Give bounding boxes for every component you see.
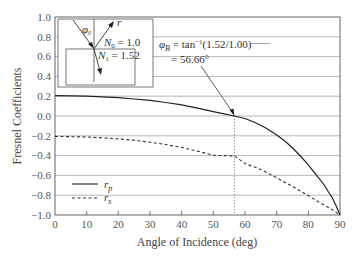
svg-text:φB = tan−1(1.52/1.00): φB = tan−1(1.52/1.00) — [159, 38, 252, 53]
svg-text:r: r — [117, 16, 122, 28]
svg-text:−1.0: −1.0 — [31, 209, 51, 221]
svg-text:−0.6: −0.6 — [31, 169, 51, 181]
svg-text:−0.4: −0.4 — [31, 149, 51, 161]
svg-text:0.4: 0.4 — [37, 70, 51, 82]
svg-text:40: 40 — [176, 218, 188, 230]
svg-text:10: 10 — [81, 218, 93, 230]
svg-text:0.2: 0.2 — [37, 90, 51, 102]
svg-text:−0.8: −0.8 — [31, 189, 51, 201]
svg-text:30: 30 — [145, 218, 157, 230]
x-ticks — [87, 211, 309, 215]
svg-text:N0 = 1.0: N0 = 1.0 — [103, 36, 141, 50]
x-axis-label: Angle of Incidence (deg) — [137, 235, 257, 249]
svg-text:1.0: 1.0 — [37, 11, 51, 23]
svg-text:N1 = 1.52: N1 = 1.52 — [97, 49, 140, 63]
x-tick-labels: 0 10 20 30 40 50 60 70 80 90 — [52, 218, 346, 230]
svg-text:90: 90 — [335, 218, 347, 230]
svg-text:0.6: 0.6 — [37, 50, 51, 62]
svg-text:rs: rs — [104, 191, 111, 206]
svg-text:80: 80 — [303, 218, 315, 230]
legend: rp rs — [72, 178, 112, 206]
fresnel-chart: 1.0 0.8 0.6 0.4 0.2 0.0 −0.2 −0.4 −0.6 −… — [0, 0, 364, 257]
svg-text:0.0: 0.0 — [37, 110, 51, 122]
svg-text:70: 70 — [271, 218, 283, 230]
svg-text:0.8: 0.8 — [37, 31, 51, 43]
svg-text:50: 50 — [208, 218, 220, 230]
y-axis-label: Fresnel Coefficients — [10, 67, 24, 164]
svg-text:= 56.66°: = 56.66° — [171, 53, 209, 65]
inset-diagram: φ0 r N0 = 1.0 N1 = 1.52 — [58, 16, 153, 87]
y-tick-labels: 1.0 0.8 0.6 0.4 0.2 0.0 −0.2 −0.4 −0.6 −… — [31, 11, 51, 221]
svg-text:−0.2: −0.2 — [31, 130, 51, 142]
svg-text:0: 0 — [52, 218, 58, 230]
svg-text:60: 60 — [240, 218, 252, 230]
svg-text:20: 20 — [113, 218, 125, 230]
